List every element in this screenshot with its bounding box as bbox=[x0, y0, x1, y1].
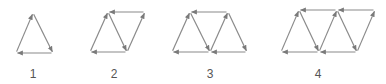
arrow-edge bbox=[191, 13, 210, 50]
figure-3 bbox=[173, 12, 247, 52]
arrow-edge bbox=[173, 13, 190, 50]
arrow-edge bbox=[34, 14, 53, 51]
arrow-edge bbox=[17, 14, 33, 51]
arrow-edge bbox=[300, 11, 319, 50]
arrow-edge bbox=[91, 13, 108, 50]
figure-label: 1 bbox=[30, 67, 37, 81]
arrow-edge bbox=[211, 13, 228, 50]
arrow-edge bbox=[282, 11, 299, 50]
figure-4 bbox=[282, 10, 375, 52]
matchstick-triangle-diagram bbox=[0, 0, 386, 84]
arrow-edge bbox=[229, 13, 247, 50]
arrow-edge bbox=[320, 11, 337, 50]
arrow-edge bbox=[128, 13, 145, 50]
arrow-edge bbox=[338, 11, 357, 50]
figure-label: 2 bbox=[111, 67, 118, 81]
figure-2 bbox=[91, 12, 145, 52]
arrow-edge bbox=[358, 11, 375, 50]
figure-label: 4 bbox=[315, 67, 322, 81]
figure-1 bbox=[17, 14, 53, 53]
figure-label: 3 bbox=[207, 67, 214, 81]
arrow-edge bbox=[109, 13, 127, 50]
